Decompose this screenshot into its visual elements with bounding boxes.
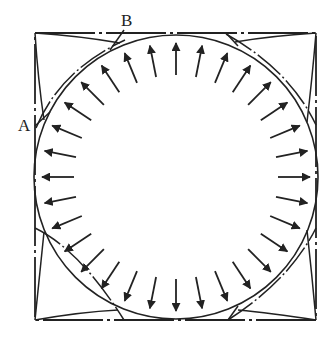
- radial-arrow-icon: [276, 151, 307, 157]
- radial-arrow-icon: [261, 103, 288, 121]
- radial-arrow-icon: [45, 197, 76, 203]
- radial-arrow-icon: [233, 262, 251, 289]
- radial-arrow-icon: [196, 277, 202, 308]
- radial-arrow-icon: [102, 66, 120, 93]
- corner-bottom-right-upper: [307, 230, 316, 320]
- corner-top-right-upper: [235, 33, 316, 42]
- radial-arrow-icon: [125, 271, 137, 301]
- label-a: A: [18, 117, 30, 134]
- corner-top-right-lower: [307, 33, 316, 122]
- radial-arrow-icon: [81, 249, 104, 272]
- radial-arrow-icon: [150, 277, 156, 308]
- radial-arrow-icon: [196, 46, 202, 77]
- radial-arrow-icon: [261, 234, 288, 252]
- radial-arrow-icon: [270, 216, 300, 228]
- radial-arrow-icon: [270, 126, 300, 138]
- corner-top-left-lower: [35, 33, 44, 120]
- corner-top-left-upper: [35, 33, 120, 43]
- radial-arrow-icon: [150, 46, 156, 77]
- radial-arrow-icon: [276, 197, 307, 203]
- radial-arrow-icon: [81, 82, 104, 105]
- radial-arrow-icon: [65, 103, 92, 121]
- radial-arrow-icon: [102, 262, 120, 289]
- radial-arrow-icon: [52, 216, 82, 228]
- radial-arrow-icon: [248, 249, 271, 272]
- radial-arrows: [42, 43, 310, 311]
- corner-bottom-left-lower: [35, 310, 118, 320]
- chord-top-left: [36, 40, 125, 128]
- radial-arrow-icon: [45, 151, 76, 157]
- radial-arrow-icon: [215, 271, 227, 301]
- radial-arrow-icon: [233, 66, 251, 93]
- corner-bottom-left-upper: [35, 232, 44, 320]
- radial-arrow-icon: [215, 53, 227, 83]
- diagram-canvas: [0, 0, 334, 339]
- radial-arrow-icon: [52, 126, 82, 138]
- radial-arrow-icon: [125, 53, 137, 83]
- corner-bottom-right-lower: [238, 310, 316, 320]
- radial-arrow-icon: [248, 82, 271, 105]
- inscribed-circle: [34, 35, 318, 319]
- radial-arrow-icon: [65, 234, 92, 252]
- label-b: B: [121, 12, 132, 29]
